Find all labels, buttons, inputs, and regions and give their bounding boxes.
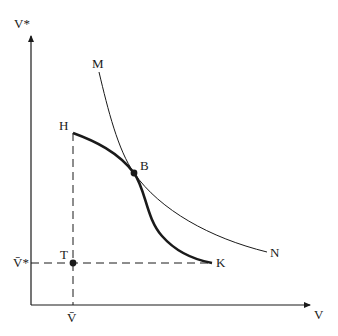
point-t xyxy=(70,260,77,267)
x-axis-label: V xyxy=(314,307,324,322)
label-h: H xyxy=(59,118,68,133)
y-axis-label: V* xyxy=(14,16,30,31)
y-tick-label: V̄* xyxy=(13,255,29,270)
point-b xyxy=(131,170,138,177)
x-tick-label: V̄ xyxy=(67,310,77,325)
label-b: B xyxy=(140,158,149,173)
diagram-canvas: V* V V̄ V̄* M N H K B T xyxy=(0,0,338,336)
label-m: M xyxy=(92,56,104,71)
frontier-curve-hk xyxy=(73,133,212,263)
label-k: K xyxy=(216,255,226,270)
label-t: T xyxy=(60,247,68,262)
label-n: N xyxy=(270,245,280,260)
